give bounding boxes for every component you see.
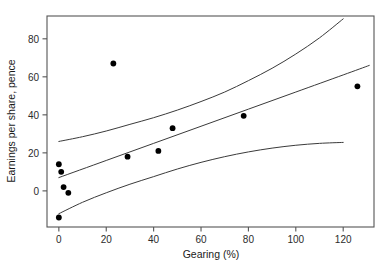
data-point <box>110 61 116 67</box>
x-tick-label: 0 <box>56 234 62 245</box>
x-axis-title: Gearing (%) <box>183 248 240 260</box>
data-point <box>58 169 64 175</box>
data-point <box>241 113 247 119</box>
y-tick-label: 0 <box>33 186 39 197</box>
chart-background <box>0 0 388 268</box>
x-tick-label: 100 <box>287 234 304 245</box>
data-point <box>170 125 176 131</box>
x-tick-label: 60 <box>195 234 207 245</box>
chart-container: 020406080100120 020406080 Gearing (%) Ea… <box>0 0 388 268</box>
y-tick-label: 40 <box>28 110 40 121</box>
scatter-plot: 020406080100120 020406080 Gearing (%) Ea… <box>0 0 388 268</box>
data-point <box>355 83 361 89</box>
x-tick-label: 40 <box>148 234 160 245</box>
x-tick-label: 80 <box>243 234 255 245</box>
y-axis-title: Earnings per share, pence <box>5 59 17 182</box>
y-tick-label: 60 <box>28 72 40 83</box>
data-point <box>56 215 62 221</box>
data-point <box>125 154 131 160</box>
y-tick-label: 20 <box>28 148 40 159</box>
y-tick-label: 80 <box>28 34 40 45</box>
data-point <box>155 148 161 154</box>
x-tick-label: 120 <box>335 234 352 245</box>
x-tick-label: 20 <box>101 234 113 245</box>
data-point <box>56 161 62 167</box>
data-point <box>65 190 71 196</box>
data-point <box>61 184 67 190</box>
